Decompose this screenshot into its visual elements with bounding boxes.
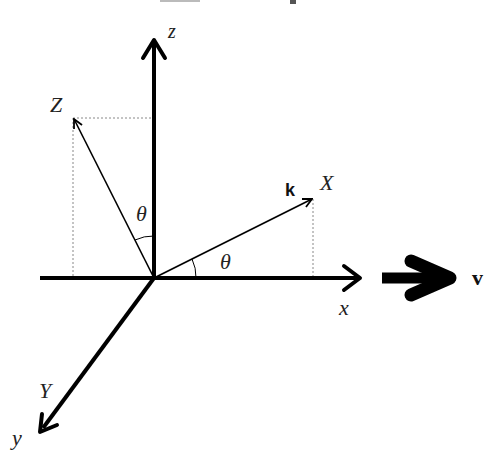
label-v: v <box>472 265 483 290</box>
rotated-x-axis <box>154 199 312 278</box>
label-k: k <box>285 180 296 200</box>
x-axis <box>40 266 360 290</box>
coordinate-diagram: z Z X k θ θ x v Y y <box>0 0 499 461</box>
z-axis <box>143 40 165 278</box>
cropped-header-text <box>160 0 296 4</box>
projection-lines <box>73 118 313 278</box>
angle-arc-z <box>135 236 154 240</box>
label-Y: Y <box>39 378 54 403</box>
label-X: X <box>319 170 335 195</box>
label-Z: Z <box>50 92 63 117</box>
velocity-arrow-icon <box>382 261 450 295</box>
label-x: x <box>338 295 349 320</box>
label-theta-z: θ <box>136 201 147 226</box>
label-theta-x: θ <box>220 249 231 274</box>
label-y: y <box>10 425 22 450</box>
y-axis <box>40 278 154 432</box>
label-z: z <box>167 20 176 42</box>
angle-arc-x <box>192 259 196 278</box>
rotated-z-axis <box>74 119 154 278</box>
